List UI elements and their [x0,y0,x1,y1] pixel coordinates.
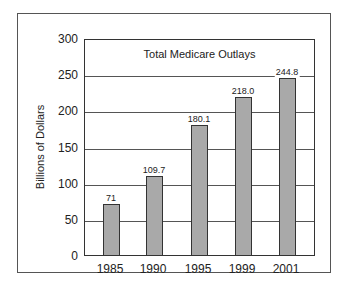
bar-value-label: 218.0 [231,86,256,96]
y-tick-label: 200 [38,104,78,118]
y-tick-label: 100 [38,177,78,191]
bar-value-label: 71 [105,193,117,203]
y-tick-label: 250 [38,68,78,82]
y-tick-label: 0 [38,249,78,263]
y-tick-label: 50 [38,213,78,227]
y-tick-label: 300 [38,32,78,46]
bar-value-label: 180.1 [187,114,212,124]
bar-2001 [279,78,296,255]
x-tick-label: 1995 [185,262,212,276]
x-tick-label: 2001 [273,262,300,276]
x-tick-label: 1985 [97,262,124,276]
bar-1995 [191,125,208,255]
bar-1985 [103,204,120,255]
bar-value-label: 244.8 [275,67,300,77]
x-tick-label: 1990 [140,262,167,276]
plot-area: Total Medicare Outlays 71109.7180.1218.0… [84,39,315,256]
x-tick-label: 1999 [229,262,256,276]
bar-1990 [146,176,163,255]
y-tick-label: 150 [38,141,78,155]
bar-1999 [235,97,252,255]
bar-value-label: 109.7 [142,165,167,175]
chart-title: Total Medicare Outlays [85,48,314,60]
